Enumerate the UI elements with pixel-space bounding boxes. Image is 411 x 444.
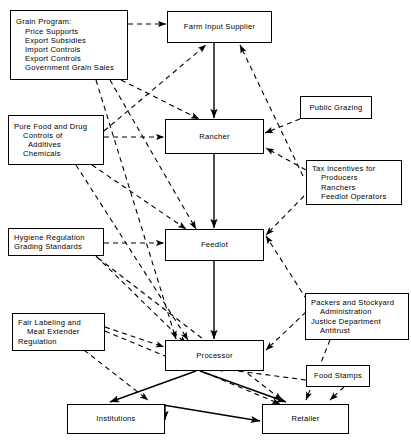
edge-processor-retailer [200, 371, 286, 402]
node-food-stamps[interactable]: Food Stamps [306, 365, 370, 387]
node-line: Additives [14, 140, 103, 149]
node-feedlot[interactable]: Feedlot [165, 229, 264, 261]
edge-grain-program-rancher [121, 80, 199, 119]
node-line: Tax Incentives for [312, 164, 401, 173]
edge-hygiene-regulation-retailer [98, 258, 282, 400]
edge-tax-incentives-feedlot [266, 196, 304, 235]
node-label: Retailer [263, 414, 348, 423]
node-processor[interactable]: Processor [165, 340, 264, 371]
node-line: Pure Food and Drug [14, 122, 103, 131]
node-line: Antitrust [311, 326, 408, 335]
edge-public-grazing-rancher [265, 119, 300, 133]
diagram-canvas: Grain Program: Price Supports Export Sub… [0, 0, 411, 444]
edge-processor-institutions [110, 371, 196, 402]
node-line: Import Controls [16, 45, 127, 54]
node-hygiene-regulation[interactable]: Hygiene Regulation Grading Standards [8, 228, 104, 256]
node-institutions[interactable]: Institutions [67, 404, 165, 434]
node-label: Farm Input Supplier [168, 22, 271, 31]
node-rancher[interactable]: Rancher [165, 119, 264, 154]
node-line: Export Subsidies [16, 36, 127, 45]
node-line: Justice Department [311, 317, 408, 326]
node-line: Feedlot Operators [312, 192, 401, 201]
node-line: Price Supports [16, 27, 127, 36]
edge-fair-labeling-processor [105, 327, 164, 347]
node-line: Controls of [14, 131, 103, 140]
node-line: Packers and Stockyard [311, 298, 408, 307]
node-line: Ranchers [312, 183, 401, 192]
node-packers-and-stockyard[interactable]: Packers and Stockyard Administration Jus… [305, 293, 409, 340]
node-label: Public Grazing [305, 103, 367, 112]
edge-packers-feedlot [266, 236, 307, 300]
edge-food-stamps-retailer [330, 387, 344, 400]
node-line: Government Grain Sales [16, 63, 127, 72]
edge-institutions-retailer [163, 405, 260, 421]
node-label: Feedlot [166, 240, 263, 249]
node-label: Institutions [68, 414, 164, 423]
node-farm-input-supplier[interactable]: Farm Input Supplier [167, 11, 272, 43]
node-label: Processor [166, 351, 263, 360]
node-pure-food-and-drug[interactable]: Pure Food and Drug Controls of Additives… [8, 115, 104, 165]
edge-grain-program-processor [96, 80, 176, 339]
edge-tax-incentives-rancher [266, 148, 306, 170]
node-line: Export Controls [16, 54, 127, 63]
node-line: Hygiene Regulation [14, 233, 103, 242]
node-fair-labeling[interactable]: Fair Labeling and Meat Extender Regulati… [12, 313, 105, 351]
node-line: Regulation [18, 337, 104, 346]
edge-tax-incentives-farm-input-supplier [240, 45, 303, 176]
edge-hygiene-regulation-processor [96, 256, 186, 344]
node-tax-incentives[interactable]: Tax Incentives for Producers Ranchers Fe… [306, 160, 402, 205]
node-line: Meat Extender [18, 327, 104, 336]
node-label: Rancher [166, 132, 263, 141]
node-line: Fair Labeling and [18, 318, 104, 327]
node-line: Administration [311, 307, 408, 316]
node-grain-program[interactable]: Grain Program: Price Supports Export Sub… [10, 10, 128, 80]
node-line: Chemicals [14, 149, 103, 158]
node-line: Grading Standards [14, 242, 103, 251]
node-label: Food Stamps [311, 371, 365, 380]
node-line: Producers [312, 173, 401, 182]
node-line: Grain Program: [16, 17, 127, 26]
node-public-grazing[interactable]: Public Grazing [300, 96, 372, 119]
edge-packers-processor [266, 312, 306, 350]
node-retailer[interactable]: Retailer [262, 404, 349, 434]
